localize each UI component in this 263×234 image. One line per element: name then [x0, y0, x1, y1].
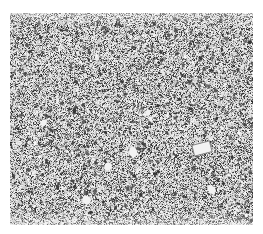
speckle-texture — [10, 13, 253, 225]
image-frame: Grayscale granular speckle texture — [0, 0, 263, 234]
